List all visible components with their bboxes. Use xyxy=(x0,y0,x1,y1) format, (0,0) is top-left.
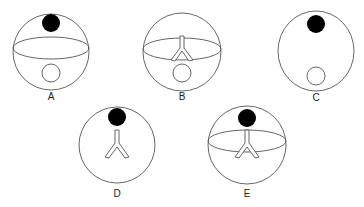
y-shape-icon xyxy=(235,130,259,158)
white-circle xyxy=(173,64,191,82)
diagram-canvas: A B C D E xyxy=(0,0,364,207)
figure-label-d: D xyxy=(113,188,120,199)
white-circle xyxy=(307,67,325,85)
figure-label-b: B xyxy=(179,91,186,102)
figure-label-c: C xyxy=(312,92,319,103)
figure-c: C xyxy=(278,11,354,103)
equator-ellipse xyxy=(13,37,89,59)
figure-label-e: E xyxy=(244,188,251,199)
figure-label-a: A xyxy=(48,91,55,102)
figure-b: B xyxy=(143,13,221,102)
white-circle xyxy=(42,64,60,82)
figure-e: E xyxy=(208,106,286,199)
figure-a: A xyxy=(13,14,89,102)
black-dot xyxy=(238,109,256,127)
black-dot xyxy=(42,14,60,32)
figure-d: D xyxy=(79,107,155,199)
black-dot xyxy=(307,15,325,33)
y-shape-icon xyxy=(171,36,193,61)
black-dot xyxy=(108,108,126,126)
y-shape-icon xyxy=(105,130,129,158)
